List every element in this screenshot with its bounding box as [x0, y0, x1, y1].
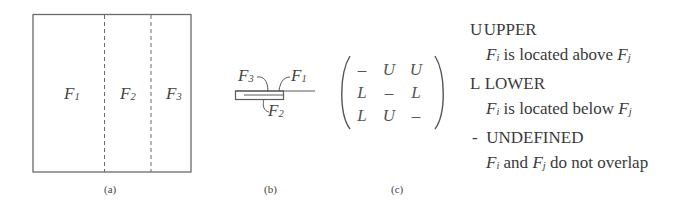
matrix-cell-0-0: – [352, 60, 372, 80]
legend-title-undefined: UNDEFINED [486, 128, 583, 147]
matrix-cell-1-2: L [406, 83, 426, 103]
matrix-cell-1-1: – [379, 83, 399, 103]
legend-symbol-dash: - [472, 128, 478, 147]
caption-c: (c) [391, 183, 403, 195]
matrix-cell-2-2: – [406, 106, 426, 126]
legend-upper-title: U UPPER [470, 20, 537, 40]
face-label-f1: F1 [64, 84, 80, 104]
face-label-f3: F3 [166, 84, 182, 104]
legend-lower-title: L LOWER [470, 74, 545, 94]
leader-f1 [279, 77, 290, 91]
matrix-cell-1-0: L [352, 83, 372, 103]
left-paren [342, 56, 350, 129]
caption-b: (b) [264, 183, 277, 195]
matrix-cell-2-0: L [352, 106, 372, 126]
side-label-f1: F1 [291, 66, 307, 86]
panel-b-diagram [200, 0, 330, 209]
caption-a: (a) [104, 183, 116, 195]
legend-title-upper: UPPER [484, 20, 537, 39]
legend-symbol-l: L [470, 74, 480, 93]
legend-symbol-u: U [470, 20, 482, 39]
side-label-f3: F3 [238, 66, 254, 86]
panel-a-diagram [0, 0, 200, 209]
legend-undefined-title: - UNDEFINED [472, 128, 583, 148]
side-label-f2: F2 [268, 101, 284, 121]
right-paren [435, 56, 443, 129]
legend-lower-desc: Fi is located below Fj [486, 99, 632, 119]
legend-title-lower: LOWER [485, 74, 545, 93]
legend-upper-desc: Fi is located above Fj [486, 45, 631, 65]
leader-f3 [257, 77, 268, 92]
matrix-cell-2-1: U [379, 106, 399, 126]
matrix-cell-0-2: U [406, 60, 426, 80]
face-label-f2: F2 [120, 84, 136, 104]
legend-undefined-desc: Fi and Fj do not overlap [486, 153, 648, 173]
matrix-cell-0-1: U [379, 60, 399, 80]
